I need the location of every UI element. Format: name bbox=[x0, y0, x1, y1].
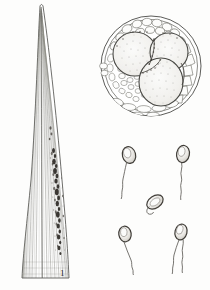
flagellum bbox=[124, 242, 133, 275]
leaf-drawing bbox=[0, 0, 105, 285]
zoospore-top-left bbox=[121, 145, 138, 199]
zoospore-centre bbox=[144, 192, 166, 214]
zoospore-bottom-right bbox=[172, 223, 189, 274]
figure-3-tissue-cross-section: 3 bbox=[97, 11, 207, 129]
zoospore-bottom-left bbox=[118, 225, 134, 275]
figure-1-label: 1 bbox=[60, 269, 65, 278]
flagellum bbox=[121, 163, 126, 199]
illustration-plate: 1 bbox=[0, 0, 210, 290]
cross-section-drawing bbox=[97, 11, 207, 129]
cavity-lower-central bbox=[139, 58, 183, 106]
zoospores-drawing bbox=[105, 138, 210, 278]
leaf-outline bbox=[22, 5, 69, 279]
zoospore-top-right bbox=[175, 144, 191, 200]
flagellum bbox=[181, 162, 182, 200]
flagellum-anterior bbox=[172, 240, 179, 274]
figure-2-zoospores: 2 bbox=[105, 138, 210, 278]
flagellum-posterior bbox=[182, 240, 183, 273]
figure-1-leaf-blade: 1 bbox=[0, 0, 105, 285]
